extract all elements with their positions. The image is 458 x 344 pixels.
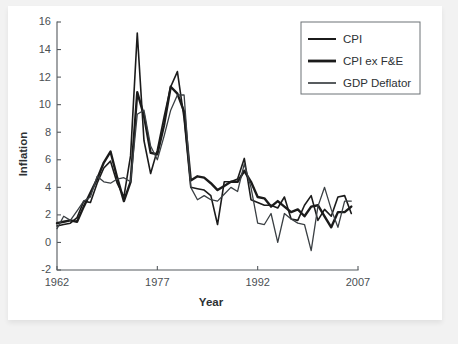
x-tick-label: 1992 [245, 276, 269, 288]
legend-label: GDP Deflator [343, 77, 411, 89]
y-tick-label: 4 [45, 181, 51, 193]
series-line [57, 87, 351, 228]
x-tick-label: 2007 [346, 276, 370, 288]
y-tick-label: 6 [45, 153, 51, 165]
x-axis-ticks: 1962197719922007 [45, 266, 370, 288]
y-tick-label: 16 [39, 15, 51, 27]
y-axis-ticks: -20246810121416 [39, 15, 61, 275]
y-tick-label: 14 [39, 43, 51, 55]
x-tick-label: 1977 [145, 276, 169, 288]
y-tick-label: -2 [41, 263, 51, 275]
legend-label: CPI [343, 33, 362, 45]
inflation-line-chart: -20246810121416 1962197719922007 Inflati… [8, 6, 442, 320]
y-tick-label: 10 [39, 98, 51, 110]
legend-label: CPI ex F&E [343, 55, 403, 67]
chart-legend: CPICPI ex F&EGDP Deflator [301, 22, 420, 94]
y-tick-label: 0 [45, 236, 51, 248]
x-tick-label: 1962 [45, 276, 69, 288]
figure-card: -20246810121416 1962197719922007 Inflati… [8, 6, 442, 320]
y-tick-label: 2 [45, 208, 51, 220]
y-tick-label: 8 [45, 126, 51, 138]
x-axis-title: Year [199, 296, 224, 308]
y-tick-label: 12 [39, 71, 51, 83]
y-axis-title: Inflation [17, 132, 29, 177]
